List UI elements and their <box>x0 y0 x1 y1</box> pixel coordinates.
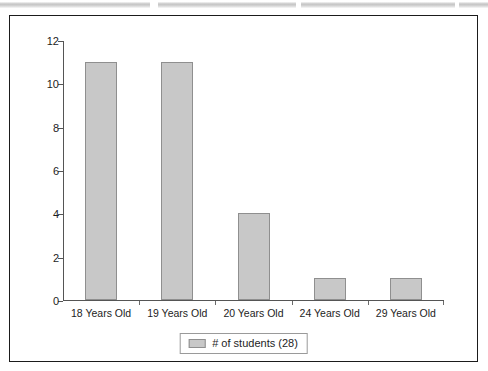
x-axis-labels: 18 Years Old19 Years Old20 Years Old24 Y… <box>63 306 444 322</box>
bar <box>85 62 117 300</box>
x-axis-label: 24 Years Old <box>292 306 368 320</box>
x-axis-label: 19 Years Old <box>139 306 215 320</box>
y-axis-tick-label: 12 <box>47 36 59 47</box>
y-axis-tick-label: 8 <box>53 122 59 133</box>
bar <box>390 278 422 300</box>
x-axis-label: 20 Years Old <box>215 306 291 320</box>
legend-swatch-icon <box>188 339 205 348</box>
x-axis-tick-mark <box>215 301 216 305</box>
y-axis-tick-label: 6 <box>53 166 59 177</box>
x-axis-tick-mark <box>292 301 293 305</box>
plot-area: 024681012 <box>63 41 444 301</box>
bar <box>314 278 346 300</box>
scan-artifact-gap <box>150 2 158 8</box>
bar <box>238 213 270 300</box>
x-axis-label: 29 Years Old <box>368 306 444 320</box>
y-axis-tick-label: 10 <box>47 79 59 90</box>
scan-artifact-gap <box>455 2 459 8</box>
chart-frame: 024681012 18 Years Old19 Years Old20 Yea… <box>9 15 478 362</box>
y-axis-tick-label: 4 <box>53 209 59 220</box>
y-axis-tick-label: 2 <box>53 252 59 263</box>
scan-artifact-band <box>0 2 488 8</box>
x-axis-label: 18 Years Old <box>63 306 139 320</box>
y-axis-tick-label: 0 <box>53 296 59 307</box>
legend-label: # of students (28) <box>212 337 298 349</box>
bar <box>161 62 193 300</box>
x-axis-tick-mark <box>368 301 369 305</box>
chart-legend: # of students (28) <box>179 333 308 354</box>
x-axis-tick-mark <box>139 301 140 305</box>
scan-artifact-gap <box>296 2 301 8</box>
x-axis-tick-mark <box>443 301 444 305</box>
bar-series <box>63 41 444 301</box>
